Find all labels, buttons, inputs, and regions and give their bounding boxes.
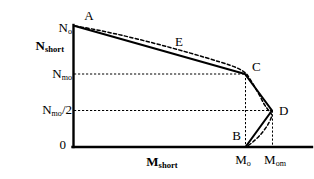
y-tick-nmo-main: N — [52, 66, 61, 81]
y-tick-nmo-half-main: N — [42, 102, 51, 117]
polyline-a-c-d-b — [75, 26, 272, 147]
y-tick-label-nmo-half: Nmo/2 — [42, 103, 72, 116]
point-label-c: C — [252, 60, 261, 73]
x-tick-label-mom: Mom — [264, 153, 286, 166]
x-tick-mo-main: M — [235, 152, 247, 167]
x-axis-title: Mshort — [146, 155, 177, 168]
axes-lines — [73, 25, 313, 147]
y-tick-n0-sub: o — [68, 28, 72, 37]
y-tick-nmo-sub: mo — [62, 74, 72, 83]
interaction-diagram-figure: Nshort Mshort 0 No Nmo Nmo/2 Mo Mom A E … — [0, 0, 314, 179]
point-label-a: A — [84, 9, 93, 22]
idealized-polyline — [75, 26, 272, 147]
y-tick-nmo-half-suffix: /2 — [62, 102, 72, 117]
y-axis-title-sub: short — [45, 44, 64, 54]
y-tick-nmo-half-sub: mo — [52, 110, 62, 119]
point-label-e: E — [175, 35, 183, 48]
x-tick-label-mo: Mo — [235, 153, 251, 166]
x-axis-title-main: M — [146, 154, 158, 169]
actual-curve — [75, 26, 272, 147]
y-tick-label-n0: No — [59, 21, 72, 34]
x-tick-mo-sub: o — [247, 160, 251, 169]
point-label-b: B — [232, 129, 241, 142]
actual-curve-path — [75, 26, 272, 147]
reference-lines — [74, 74, 273, 147]
y-axis-title-main: N — [36, 38, 45, 53]
y-tick-n0-main: N — [59, 20, 68, 35]
y-axis-title: Nshort — [36, 39, 64, 52]
x-tick-mom-main: M — [264, 152, 276, 167]
x-tick-mom-sub: om — [276, 160, 286, 169]
x-axis-title-sub: short — [159, 160, 178, 170]
y-tick-label-nmo: Nmo — [52, 67, 72, 80]
origin-label: 0 — [60, 138, 67, 151]
point-label-d: D — [279, 104, 288, 117]
